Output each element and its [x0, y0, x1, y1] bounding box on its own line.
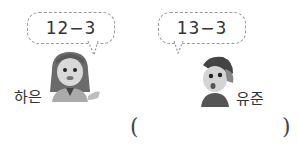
expression-haeun: 12−3: [46, 18, 97, 38]
answer-close-paren: ): [282, 114, 291, 139]
answer-input[interactable]: [145, 116, 275, 142]
bubble-tail-yujun-icon: [172, 41, 186, 55]
answer-open-paren: (: [130, 114, 139, 139]
girl-character-icon: [44, 50, 102, 102]
character-name-yujun: 유준: [236, 87, 264, 108]
expression-yujun: 13−3: [177, 18, 228, 38]
speech-bubble-yujun: 13−3: [158, 12, 246, 44]
character-name-haeun: 하은: [14, 85, 42, 106]
boy-character-icon: [193, 55, 237, 107]
speech-bubble-haeun: 12−3: [27, 12, 115, 44]
